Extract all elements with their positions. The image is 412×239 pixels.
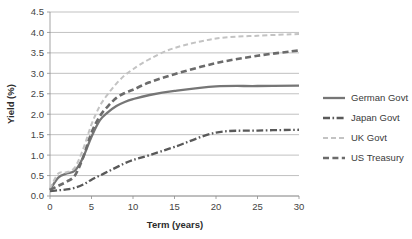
x-tick-label: 15: [169, 201, 180, 212]
y-axis-title: Yield (%): [5, 84, 16, 124]
y-tick-label: 2.0: [31, 109, 44, 120]
x-tick-label: 25: [252, 201, 263, 212]
y-tick-label: 2.5: [31, 88, 44, 99]
y-tick-label: 3.5: [31, 47, 44, 58]
y-axis-ticks: 0.00.51.01.52.02.53.03.54.04.5: [31, 6, 50, 201]
y-tick-label: 4.0: [31, 27, 44, 38]
legend-label: Japan Govt: [351, 112, 400, 123]
yield-curve-chart: 0.00.51.01.52.02.53.03.54.04.5 051015202…: [0, 0, 412, 239]
legend: German GovtJapan GovtUK GovtUS Treasury: [323, 92, 408, 163]
y-tick-label: 0.0: [31, 190, 44, 201]
x-axis-title: Term (years): [147, 219, 203, 230]
legend-label: German Govt: [351, 92, 408, 103]
y-tick-label: 0.5: [31, 170, 44, 181]
x-tick-label: 20: [211, 201, 222, 212]
x-tick-label: 10: [128, 201, 139, 212]
gridlines: [50, 12, 299, 196]
chart-canvas: 0.00.51.01.52.02.53.03.54.04.5 051015202…: [0, 0, 412, 239]
y-tick-label: 3.0: [31, 68, 44, 79]
data-series-group: [50, 34, 299, 191]
x-axis-ticks: 051015202530: [47, 196, 304, 212]
y-tick-label: 4.5: [31, 6, 44, 17]
series-line: [50, 34, 299, 189]
legend-label: US Treasury: [351, 152, 404, 163]
x-tick-label: 5: [89, 201, 94, 212]
y-tick-label: 1.5: [31, 129, 44, 140]
x-tick-label: 0: [47, 201, 52, 212]
legend-label: UK Govt: [351, 132, 387, 143]
y-tick-label: 1.0: [31, 150, 44, 161]
x-tick-label: 30: [294, 201, 305, 212]
series-line: [50, 50, 299, 189]
